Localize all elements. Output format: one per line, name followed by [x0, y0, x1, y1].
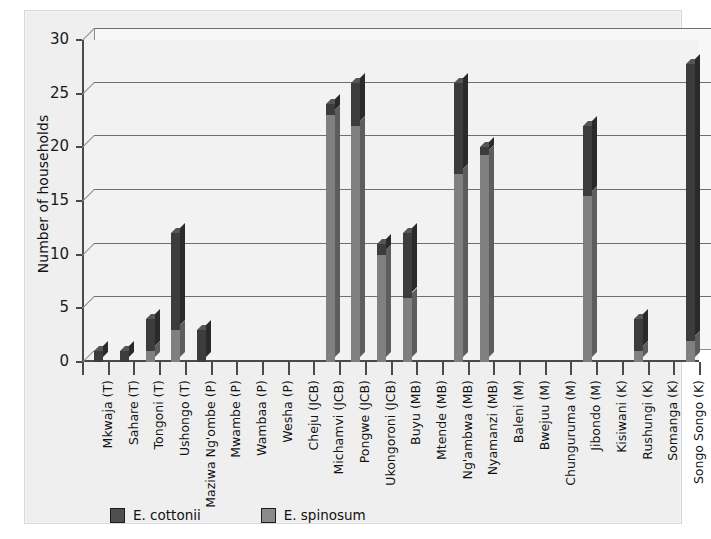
- x-tick-mark: [185, 362, 187, 375]
- x-tick-mark: [416, 362, 418, 375]
- x-tick-mark: [596, 362, 598, 375]
- bar-group: [120, 351, 129, 362]
- bar-series-layer: [82, 40, 699, 362]
- cottonii-swatch: [110, 508, 125, 523]
- bar-segment-cottonii: [94, 351, 103, 362]
- x-tick-mark: [545, 362, 547, 375]
- x-tick-label: Kisiwani (K): [614, 380, 629, 453]
- x-tick-mark: [159, 362, 161, 375]
- x-tick-mark: [133, 362, 135, 375]
- legend-item-cottonii: E. cottonii: [110, 507, 201, 523]
- x-tick-label: Maziwa Ng'ombe (P): [203, 380, 218, 508]
- x-tick-mark: [648, 362, 650, 375]
- bar-segment-cottonii: [197, 330, 206, 362]
- bar-segment-spinosum: [146, 351, 155, 362]
- x-tick-label: Mtende (MB): [434, 380, 449, 460]
- x-tick-mark: [699, 362, 701, 375]
- bar-group: [94, 351, 103, 362]
- x-tick-mark: [339, 362, 341, 375]
- legend-item-spinosum: E. spinosum: [261, 507, 366, 523]
- x-tick-label: Chunguruma (M): [563, 380, 578, 486]
- bar-segment-cottonii: [403, 233, 412, 297]
- x-tick-label: Bwejuu (M): [537, 380, 552, 450]
- x-tick-mark: [391, 362, 393, 375]
- x-tick-mark: [365, 362, 367, 375]
- x-tick-label: Cheju (JCB): [306, 380, 321, 450]
- bar-segment-cottonii: [583, 126, 592, 196]
- bar-segment-spinosum: [171, 330, 180, 362]
- bar-segment-cottonii: [480, 147, 489, 155]
- x-tick-mark: [313, 362, 315, 375]
- x-tick-label: Tongoni (T): [151, 380, 166, 449]
- x-tick-mark: [493, 362, 495, 375]
- bar-segment-cottonii: [634, 319, 643, 351]
- x-tick-label: Wambaa (P): [254, 380, 269, 456]
- x-tick-label: Rushungi (K): [640, 380, 655, 460]
- x-tick-mark: [519, 362, 521, 375]
- x-tick-mark: [262, 362, 264, 375]
- bar-segment-spinosum: [377, 255, 386, 362]
- chart-legend: E. cottonii E. spinosum: [110, 507, 366, 523]
- bar-group: [326, 104, 335, 362]
- x-tick-mark: [236, 362, 238, 375]
- bar-segment-spinosum: [634, 351, 643, 362]
- x-tick-label: Somanga (K): [665, 380, 680, 461]
- x-tick-mark: [468, 362, 470, 375]
- bar-group: [686, 64, 695, 362]
- x-tick-label: Pongwe (JCB): [357, 380, 372, 463]
- spinosum-swatch: [261, 508, 276, 523]
- x-tick-mark: [570, 362, 572, 375]
- bar-segment-spinosum: [686, 341, 695, 362]
- bar-segment-cottonii: [351, 83, 360, 126]
- bar-group: [351, 83, 360, 362]
- bar-segment-spinosum: [326, 115, 335, 362]
- bar-group: [197, 330, 206, 362]
- bar-segment-cottonii: [146, 319, 155, 351]
- bar-segment-spinosum: [351, 126, 360, 362]
- gridline-connector: [82, 28, 95, 41]
- bar-group: [171, 233, 180, 362]
- bar-group: [634, 319, 643, 362]
- bar-group: [146, 319, 155, 362]
- x-tick-mark: [108, 362, 110, 375]
- bar-group: [377, 244, 386, 362]
- x-tick-mark: [673, 362, 675, 375]
- bar-segment-spinosum: [403, 298, 412, 362]
- bar-segment-cottonii: [377, 244, 386, 255]
- x-tick-label: Baleni (M): [511, 380, 526, 443]
- y-axis-title: Number of households: [35, 84, 51, 304]
- x-tick-label: Jibondo (M): [588, 380, 603, 451]
- y-tick-label: 0: [35, 352, 69, 370]
- y-tick-label: 30: [35, 30, 69, 48]
- bar-group: [583, 126, 592, 362]
- bar-group: [403, 233, 412, 362]
- x-tick-label: Songo Songo (K): [691, 380, 706, 484]
- bar-segment-cottonii: [326, 104, 335, 115]
- bar-group: [480, 147, 489, 362]
- x-tick-label: Ng'ambwa (MB): [460, 380, 475, 479]
- x-tick-label: Mwambe (P): [228, 380, 243, 458]
- chart-panel: 051015202530 Number of households Mkwaja…: [24, 10, 682, 524]
- x-tick-mark: [82, 362, 84, 375]
- bar-group: [454, 83, 463, 362]
- bar-segment-cottonii: [454, 83, 463, 174]
- bar-segment-spinosum: [454, 174, 463, 362]
- x-tick-label: Mkwaja (T): [100, 380, 115, 448]
- x-tick-label: Michamvi (JCB): [331, 380, 346, 474]
- bar-segment-spinosum: [480, 155, 489, 362]
- bar-segment-cottonii: [686, 64, 695, 341]
- x-tick-mark: [211, 362, 213, 375]
- x-tick-mark: [622, 362, 624, 375]
- x-tick-label: Ushongo (T): [177, 380, 192, 456]
- x-tick-label: Wesha (P): [280, 380, 295, 443]
- x-tick-label: Sahare (T): [126, 380, 141, 445]
- x-tick-mark: [442, 362, 444, 375]
- bar-segment-cottonii: [171, 233, 180, 330]
- x-tick-label: Ukongoroni (JCB): [383, 380, 398, 486]
- bar-segment-spinosum: [583, 196, 592, 362]
- x-tick-mark: [288, 362, 290, 375]
- x-tick-label: Buyu (MB): [408, 380, 423, 445]
- legend-label-spinosum: E. spinosum: [284, 507, 366, 523]
- x-tick-label: Nyamanzi (MB): [485, 380, 500, 475]
